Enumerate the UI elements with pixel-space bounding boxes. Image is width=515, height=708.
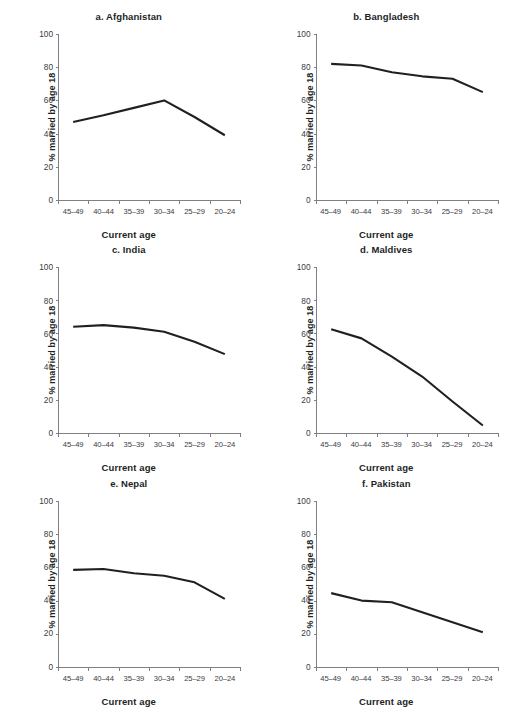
figure-suptitle	[0, 0, 515, 1]
series-line-maldives	[331, 330, 483, 426]
plot-area-bangladesh	[258, 8, 515, 241]
panel-afghanistan: a. Afghanistan% married by age 18Current…	[0, 8, 258, 241]
panel-bangladesh: b. Bangladesh% married by age 18Current …	[258, 8, 515, 241]
series-line-india	[73, 325, 225, 354]
series-line-nepal	[73, 569, 225, 599]
panel-india: c. India% married by age 18Current age02…	[0, 241, 258, 474]
panel-pakistan: f. Pakistan% married by age 18Current ag…	[258, 475, 515, 708]
plot-area-nepal	[0, 475, 258, 708]
axis-spines	[59, 500, 241, 667]
plot-area-pakistan	[258, 475, 515, 708]
series-line-bangladesh	[331, 64, 483, 92]
axis-spines	[59, 34, 241, 201]
panel-grid: a. Afghanistan% married by age 18Current…	[0, 8, 515, 708]
axis-spines	[316, 500, 498, 667]
series-line-afghanistan	[73, 100, 225, 135]
panel-nepal: e. Nepal% married by age 18Current age02…	[0, 475, 258, 708]
axis-spines	[316, 267, 498, 434]
plot-area-afghanistan	[0, 8, 258, 241]
series-line-pakistan	[331, 593, 483, 632]
panel-maldives: d. Maldives% married by age 18Current ag…	[258, 241, 515, 474]
figure-multi-panel-chart: a. Afghanistan% married by age 18Current…	[0, 0, 515, 708]
plot-area-maldives	[258, 241, 515, 474]
plot-area-india	[0, 241, 258, 474]
axis-spines	[316, 34, 498, 201]
